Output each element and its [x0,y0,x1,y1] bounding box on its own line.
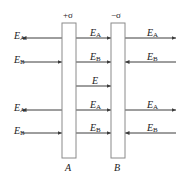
field-label-right-row-4: EA [147,100,158,111]
field-label-left-row-2: EB [14,55,25,66]
plate-label-a: A [65,163,71,173]
field-label-right-row-2: EB [147,52,158,63]
charge-label-plate-b: −σ [111,11,121,20]
electric-field-diagram: +σ −σ A B EAEAEAEBEBEBEEAEAEAEBEBEB [0,0,184,180]
field-label-left-row-5: EB [14,126,25,137]
field-label-middle-row-3: E [92,76,98,86]
field-label-middle-row-5: EB [90,123,101,134]
field-label-right-row-1: EA [147,28,158,39]
field-label-right-row-5: EB [147,123,158,134]
field-label-middle-row-1: EA [90,28,101,39]
field-label-left-row-4: EA [14,103,25,114]
charge-label-plate-a: +σ [63,11,73,20]
field-label-left-row-1: EA [14,31,25,42]
plate-a [62,23,76,158]
field-label-middle-row-2: EB [90,52,101,63]
plate-label-b: B [114,163,120,173]
field-label-middle-row-4: EA [90,100,101,111]
plate-group [62,23,125,158]
plate-b [111,23,125,158]
